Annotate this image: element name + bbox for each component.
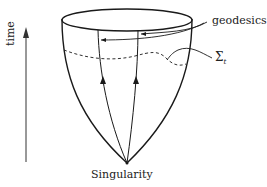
geodesic-left	[98, 30, 127, 163]
sigma-t-label: Σt	[215, 50, 226, 66]
geodesic-arrow-left	[100, 76, 106, 84]
singularity-point	[126, 162, 129, 165]
sigma-t-slice	[64, 50, 186, 65]
time-label: time	[4, 21, 17, 46]
geodesic-right	[127, 30, 138, 163]
bowl-left-wall	[62, 19, 127, 163]
spacetime-diagram	[0, 0, 267, 187]
sigma-subscript: t	[223, 58, 226, 66]
time-axis-arrow	[23, 27, 29, 162]
geodesic-arrow-right	[133, 76, 139, 84]
bowl-rim	[62, 9, 192, 31]
geodesics-label: geodesics	[212, 14, 267, 27]
singularity-label: Singularity	[91, 168, 153, 181]
bowl-right-wall	[127, 19, 192, 163]
